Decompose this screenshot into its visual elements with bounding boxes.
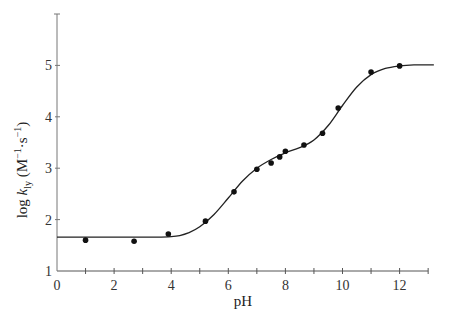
x-tick-label: 2	[111, 278, 118, 293]
fitted-curve	[57, 65, 434, 237]
data-point	[301, 142, 307, 148]
data-point	[320, 130, 326, 136]
data-point	[231, 189, 237, 195]
y-tick-label: 1	[45, 264, 52, 279]
y-tick-label: 5	[45, 58, 52, 73]
ticks: 02468101212345	[45, 58, 407, 293]
fit-line	[57, 65, 434, 237]
x-tick-label: 12	[393, 278, 407, 293]
data-point	[203, 218, 209, 224]
x-tick-label: 10	[336, 278, 350, 293]
data-point	[368, 69, 374, 75]
x-axis-label: pH	[234, 293, 253, 309]
data-point	[268, 160, 274, 166]
data-point	[254, 166, 260, 172]
y-tick-label: 4	[45, 110, 52, 125]
data-point	[131, 238, 137, 244]
y-tick-label: 3	[45, 161, 52, 176]
data-point	[277, 154, 283, 160]
y-tick-label: 2	[45, 213, 52, 228]
data-point	[283, 148, 289, 154]
data-point	[83, 237, 89, 243]
data-point	[397, 63, 403, 69]
x-tick-label: 6	[225, 278, 232, 293]
x-tick-label: 0	[54, 278, 61, 293]
x-tick-label: 8	[282, 278, 289, 293]
x-tick-label: 4	[168, 278, 175, 293]
chart: 02468101212345 pH log kly (M−1·s−1)	[0, 0, 449, 330]
data-point	[335, 105, 341, 111]
y-axis-label: log kly (M−1·s−1)	[12, 122, 33, 219]
data-point	[166, 231, 172, 237]
axes	[54, 14, 428, 274]
